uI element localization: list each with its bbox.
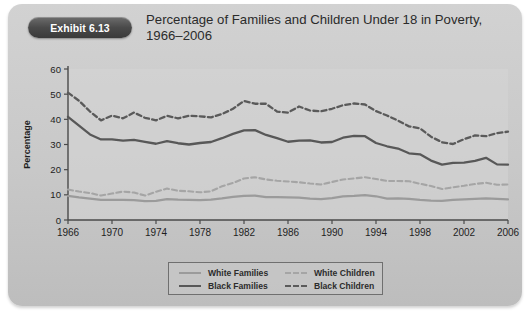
legend-item-white-families: White Families [169,268,275,278]
y-tick-label: 60 [50,64,61,75]
x-tick-label: 1978 [189,227,212,238]
x-tick-label: 1966 [57,227,80,238]
y-tick-label: 10 [50,189,61,200]
x-tick-label: 1982 [233,227,256,238]
exhibit-card: Exhibit 6.13 Percentage of Families and … [8,4,522,306]
legend-item-white-children: White Children [275,268,381,278]
x-tick-label: 1986 [277,227,300,238]
x-tick-label: 1974 [145,227,168,238]
y-axis-title: Percentage [22,120,32,169]
y-tick-label: 40 [50,114,61,125]
legend-swatch-black-families-icon [179,285,201,287]
x-tick-label: 1970 [101,227,124,238]
x-tick-label: 1994 [365,227,388,238]
y-tick-label: 30 [50,139,61,150]
legend-swatch-white-children-icon [285,272,307,274]
legend-label-white-families: White Families [208,268,268,278]
x-tick-label: 2006 [497,227,520,238]
x-tick-label: 1990 [321,227,344,238]
legend-item-black-families: Black Families [169,281,275,291]
legend-item-black-children: Black Children [275,281,381,291]
y-tick-label: 20 [50,164,61,175]
chart-plot-area: 0102030405060Percentage19661970197419781… [8,54,522,254]
x-tick-label: 2002 [453,227,476,238]
legend-swatch-black-children-icon [285,285,307,287]
chart-legend: White Families White Children Black Fami… [168,262,383,295]
exhibit-badge: Exhibit 6.13 [28,17,132,38]
legend-label-black-children: Black Children [314,281,374,291]
legend-row-2: Black Families Black Children [169,279,382,292]
legend-label-white-children: White Children [314,268,375,278]
exhibit-header: Exhibit 6.13 Percentage of Families and … [8,10,522,56]
y-tick-label: 0 [56,215,61,226]
y-tick-label: 50 [50,89,61,100]
legend-row-1: White Families White Children [169,266,382,279]
line-chart: 0102030405060Percentage19661970197419781… [8,54,522,254]
page-title: Percentage of Families and Children Unde… [146,12,506,43]
x-tick-label: 1998 [409,227,432,238]
legend-swatch-white-families-icon [179,272,201,274]
legend-label-black-families: Black Families [208,281,268,291]
